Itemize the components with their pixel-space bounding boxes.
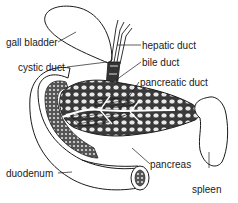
label-pancreatic-duct: pancreatic duct bbox=[140, 77, 208, 88]
pancreas bbox=[60, 80, 200, 136]
label-duodenum: duodenum bbox=[6, 168, 53, 179]
label-gall-bladder: gall bladder bbox=[6, 37, 58, 48]
hepatic-duct bbox=[111, 20, 132, 64]
spleen bbox=[195, 97, 228, 166]
label-hepatic-duct: hepatic duct bbox=[142, 40, 196, 51]
label-cystic-duct: cystic duct bbox=[18, 62, 65, 73]
label-bile-duct: bile duct bbox=[142, 57, 179, 68]
label-pancreas: pancreas bbox=[150, 159, 191, 170]
label-spleen: spleen bbox=[192, 184, 221, 195]
anatomy-diagram: gall bladder cystic duct hepatic duct bi… bbox=[0, 0, 238, 203]
gall-bladder bbox=[45, 6, 112, 63]
